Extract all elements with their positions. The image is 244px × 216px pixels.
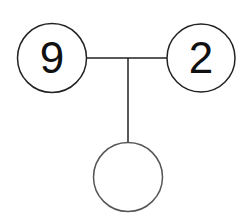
whole-circle-bottom[interactable] (94, 143, 163, 212)
part-left-value: 9 (40, 33, 64, 82)
part-circle-right: 2 (167, 24, 235, 92)
part-circle-left: 9 (18, 24, 87, 93)
part-right-value: 2 (189, 33, 213, 82)
number-bond-diagram: 9 2 (0, 0, 244, 216)
